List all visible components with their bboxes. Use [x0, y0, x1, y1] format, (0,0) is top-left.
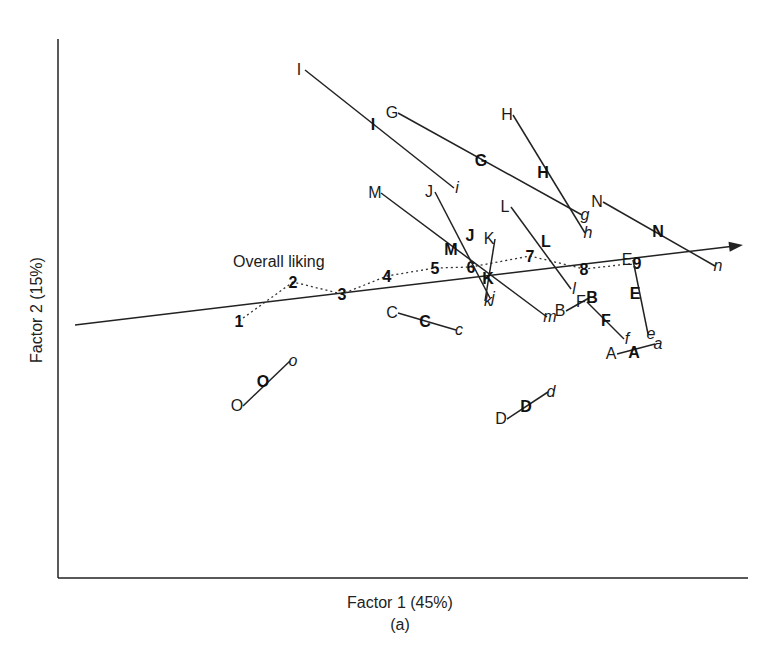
product-label-lower: e: [647, 325, 656, 342]
product-label-upper: K: [484, 230, 495, 247]
product-label-upper: A: [606, 345, 617, 362]
product-label-bold: A: [628, 344, 640, 361]
product-label-upper: L: [501, 198, 510, 215]
product-segment: [305, 70, 454, 188]
product-label-bold: C: [419, 313, 431, 330]
liking-scale-point: 4: [383, 268, 392, 285]
liking-scale-point: 7: [526, 248, 535, 265]
axes: [58, 39, 748, 578]
product-label-bold: H: [537, 164, 549, 181]
product-label-upper: E: [622, 251, 633, 268]
y-axis-title: Factor 2 (15%): [28, 257, 45, 363]
product-label-bold: M: [444, 241, 457, 258]
product-N: NNn: [591, 193, 722, 274]
product-label-bold: E: [630, 285, 641, 302]
product-label-bold: N: [652, 223, 664, 240]
liking-scale-point: 1: [235, 313, 244, 330]
biplot-chart: Factor 1 (45%) (a) Factor 2 (15%) 123456…: [0, 0, 773, 662]
product-H: HHh: [501, 106, 592, 241]
product-label-lower: m: [543, 308, 556, 325]
product-C: CCc: [386, 304, 463, 338]
product-label-lower: o: [289, 352, 298, 369]
product-label-bold: L: [541, 233, 551, 250]
liking-scale-point: 5: [431, 260, 440, 277]
product-label-upper: F: [576, 293, 586, 310]
product-label-bold: J: [466, 227, 475, 244]
product-label-upper: O: [231, 397, 243, 414]
product-label-lower: h: [584, 224, 593, 241]
product-O: OOo: [231, 352, 298, 414]
product-label-upper: G: [386, 104, 398, 121]
product-F: FFf: [576, 293, 631, 347]
product-label-bold: G: [475, 152, 487, 169]
product-label-upper: H: [501, 106, 513, 123]
product-label-upper: M: [368, 184, 381, 201]
product-label-lower: i: [455, 179, 459, 196]
product-label-lower: k: [484, 292, 493, 309]
product-segment: [513, 115, 585, 233]
product-label-lower: g: [581, 206, 590, 223]
product-label-bold: F: [601, 312, 611, 329]
product-label-upper: D: [495, 410, 507, 427]
liking-scale-point: 3: [338, 286, 347, 303]
product-D: DDd: [495, 383, 556, 427]
product-label-upper: J: [425, 183, 433, 200]
x-axis-title: Factor 1 (45%): [347, 594, 453, 611]
product-label-upper: I: [297, 61, 301, 78]
product-G: GGg: [386, 104, 590, 223]
liking-scale-point: 8: [580, 261, 589, 278]
product-label-lower: c: [455, 321, 463, 338]
product-segment: [381, 193, 547, 317]
product-L: LLl: [501, 198, 577, 297]
product-label-bold: D: [520, 398, 532, 415]
product-segments: AAaBBCCcDDdEEeFFfGGgHHhIIiJJjKKkLLlMMmNN…: [231, 61, 723, 427]
product-I: IIi: [297, 61, 459, 196]
product-label-bold: O: [257, 373, 269, 390]
figure-caption: (a): [390, 616, 410, 633]
product-label-lower: l: [572, 280, 576, 297]
product-label-upper: C: [386, 304, 398, 321]
arrowhead-icon: [729, 242, 743, 252]
product-label-lower: d: [547, 383, 557, 400]
product-label-upper: N: [591, 193, 603, 210]
product-label-bold: I: [371, 116, 375, 133]
liking-scale-point: 2: [289, 274, 298, 291]
overall-liking-label: Overall liking: [233, 253, 325, 270]
product-label-lower: n: [714, 257, 723, 274]
